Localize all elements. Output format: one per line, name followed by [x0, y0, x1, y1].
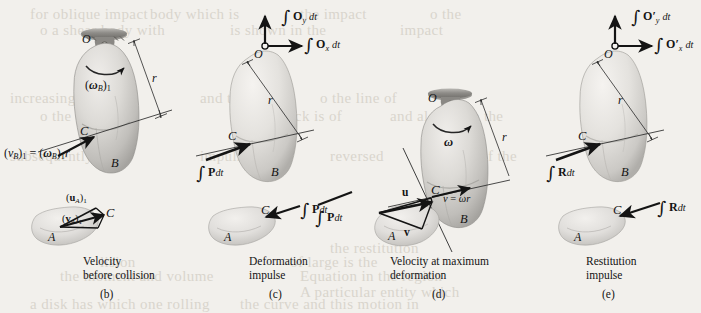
label-contact-C-small-e: C	[613, 203, 621, 217]
label-v-equals-omega-r-d: v = ωr	[443, 193, 470, 205]
label-omega-d: ω	[444, 135, 453, 149]
panel-id-d: (d)	[432, 288, 445, 300]
panel-d-graphics	[318, 89, 510, 253]
integral-sign: ∫	[546, 163, 555, 183]
P-impulse-arrow-A-c	[266, 206, 300, 217]
label-R-impulse-e: ∫ Rdt	[546, 164, 575, 183]
label-radius-r-b: r	[152, 72, 157, 85]
label-contact-C-small-c: C	[261, 203, 269, 217]
body-B-shape-e	[580, 51, 647, 182]
panel-id-b: (b)	[100, 288, 113, 300]
label-radius-r-c: r	[268, 94, 273, 107]
label-body-B-b: B	[111, 156, 119, 170]
label-pivot-O-e: O	[604, 48, 613, 61]
label-R-impulse-A-e: ∫ Rdt	[657, 199, 686, 218]
label-v-vector-d: v	[404, 226, 410, 239]
label-contact-C-d: C	[431, 183, 440, 198]
integral-sign: ∫	[315, 208, 324, 228]
omega-symbol: ω	[89, 78, 98, 92]
label-impulse-Oy-prime-e: ∫ O′y dt	[631, 8, 670, 27]
v-vector-b	[60, 227, 98, 228]
label-contact-C-small-b: C	[106, 206, 114, 220]
label-contact-C-c: C	[228, 129, 236, 143]
panel-id-c: (c)	[269, 288, 282, 300]
integral-sign: ∫	[304, 35, 313, 55]
integral-sign: ∫	[281, 7, 290, 27]
body-B-shape-b	[74, 43, 139, 173]
label-body-B-e: B	[621, 165, 629, 179]
label-body-A-e: A	[574, 231, 581, 244]
body-B-shape-c	[230, 51, 297, 182]
label-impulse-Ox-prime-e: ∫ O′x dt	[654, 36, 693, 55]
label-v-A-1-b: (vA)1	[62, 213, 82, 226]
label-P-impulse-d: ∫ Pdt	[315, 209, 342, 228]
label-body-A-c: A	[224, 231, 231, 244]
label-impulse-Ox-c: ∫ Ox dt	[304, 36, 340, 55]
label-contact-C-e: C	[578, 129, 586, 143]
panel-b-graphics	[32, 28, 172, 245]
label-velocity-equation-b: (vB)1 = (ωB)1r	[4, 147, 70, 161]
integral-sign: ∫	[300, 200, 309, 220]
panel-id-e: (e)	[602, 288, 615, 300]
label-impulse-Oy-c: ∫ Oy dt	[281, 8, 317, 27]
caption-d: Velocity at maximum deformation	[390, 255, 489, 282]
label-u-A-1-b: (uA)1	[66, 192, 87, 205]
label-body-A-b: A	[48, 231, 55, 244]
label-radius-r-e: r	[618, 94, 623, 107]
label-body-B-d: B	[460, 212, 468, 226]
label-pivot-O-d: O	[428, 92, 437, 105]
integral-sign: ∫	[657, 198, 666, 218]
label-pivot-O-b: O	[82, 33, 91, 46]
caption-e: Restitution impulse	[586, 255, 636, 282]
label-P-impulse-c: ∫ Pdt	[196, 164, 223, 183]
R-impulse-arrow-A-e	[620, 203, 660, 216]
label-radius-r-d: r	[502, 131, 507, 144]
label-body-A-d: A	[388, 230, 395, 243]
label-pivot-O-c: O	[254, 48, 263, 61]
caption-c: Deformation impulse	[249, 255, 308, 282]
integral-sign: ∫	[631, 7, 640, 27]
label-u-vector-d: u	[402, 186, 408, 199]
integral-sign: ∫	[654, 35, 663, 55]
label-body-B-c: B	[271, 165, 279, 179]
label-omega-B-1-b: (ωB)1	[85, 79, 111, 93]
caption-b: Velocity before collision	[83, 255, 155, 282]
integral-sign: ∫	[196, 163, 205, 183]
label-contact-C-b: C	[80, 124, 88, 138]
